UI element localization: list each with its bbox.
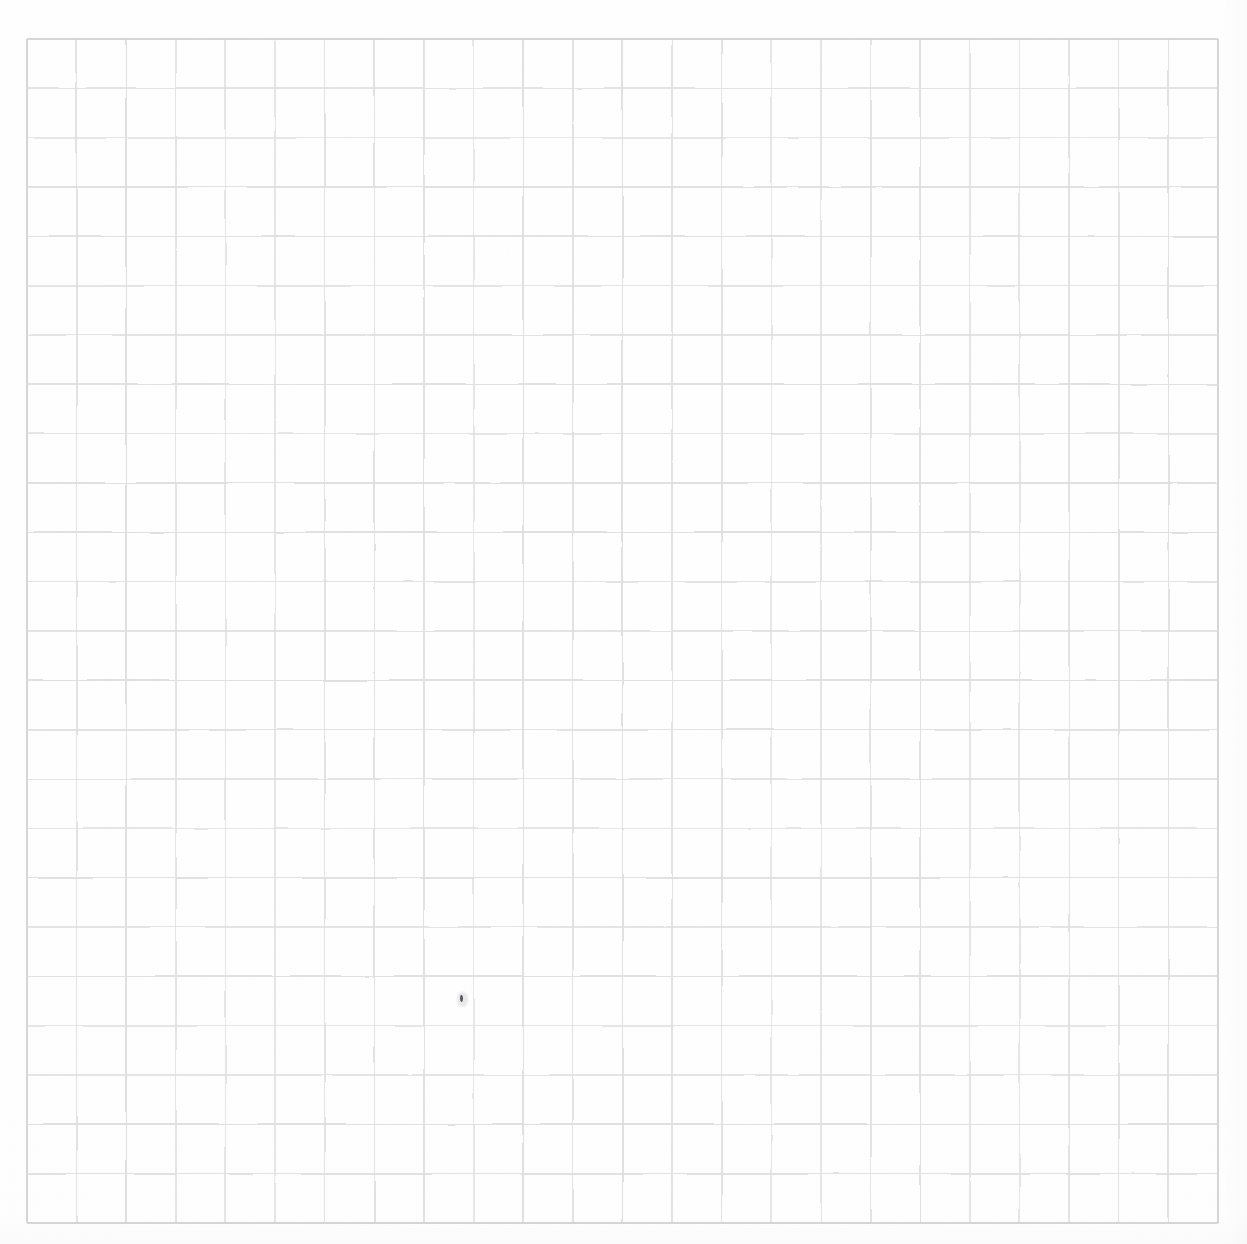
grid-svg xyxy=(23,35,1222,1227)
graph-paper-page xyxy=(0,0,1247,1244)
pencil-speck xyxy=(460,995,463,1002)
graph-paper-grid xyxy=(27,39,1218,1223)
